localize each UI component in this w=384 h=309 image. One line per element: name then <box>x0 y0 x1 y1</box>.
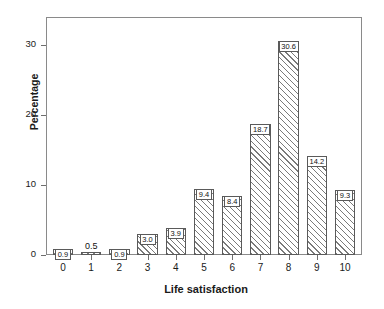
x-axis-tick-mark <box>176 255 177 260</box>
x-axis-tick-mark <box>204 255 205 260</box>
bar <box>250 124 270 255</box>
x-axis-tick-label: 3 <box>134 262 162 273</box>
y-axis-tick: 30 <box>0 45 46 46</box>
y-axis-tick: 20 <box>0 115 46 116</box>
x-axis-tick-label: 7 <box>246 262 274 273</box>
x-axis-tick-mark <box>148 255 149 260</box>
y-axis-tick-mark <box>41 255 46 256</box>
bar-value-label: 0.9 <box>55 249 71 260</box>
y-axis-tick-label: 0 <box>31 248 36 259</box>
y-axis-tick-label: 20 <box>25 108 36 119</box>
x-axis-tick-mark <box>289 255 290 260</box>
bar <box>278 41 298 255</box>
x-axis-tick-label: 8 <box>275 262 303 273</box>
y-axis-tick-label: 10 <box>25 178 36 189</box>
bar-value-label: 0.9 <box>111 249 127 260</box>
bar-value-label: 3.9 <box>168 228 184 239</box>
x-axis-tick-mark <box>317 255 318 260</box>
x-axis-tick-mark <box>91 255 92 260</box>
bar-value-label: 30.6 <box>279 41 299 52</box>
x-axis-title: Life satisfaction <box>46 283 366 295</box>
x-axis-tick-label: 2 <box>105 262 133 273</box>
x-axis-tick-label: 1 <box>77 262 105 273</box>
x-axis-tick-label: 0 <box>49 262 77 273</box>
bar-value-label: 0.5 <box>83 241 99 252</box>
x-axis-tick-label: 10 <box>331 262 359 273</box>
y-axis-tick: 10 <box>0 185 46 186</box>
y-axis-tick-mark <box>41 185 46 186</box>
y-axis-tick-mark <box>41 45 46 46</box>
y-axis-title: Percentage <box>28 32 40 172</box>
x-axis-tick-label: 6 <box>218 262 246 273</box>
bar-chart: Percentage 0102030 012345678910 0.90.50.… <box>0 0 384 309</box>
x-axis-tick-mark <box>260 255 261 260</box>
bar-value-label: 8.4 <box>224 196 240 207</box>
x-axis-tick-label: 9 <box>303 262 331 273</box>
bar-value-label: 9.3 <box>337 190 353 201</box>
y-axis-tick-mark <box>41 115 46 116</box>
x-axis-tick-mark <box>345 255 346 260</box>
bar <box>81 252 101 256</box>
x-axis-tick-label: 4 <box>162 262 190 273</box>
bar-value-label: 9.4 <box>196 189 212 200</box>
bar-value-label: 14.2 <box>307 156 327 167</box>
bar-value-label: 18.7 <box>250 124 270 135</box>
y-axis-tick-label: 30 <box>25 38 36 49</box>
bar-value-label: 3.0 <box>140 234 156 245</box>
x-axis-tick-label: 5 <box>190 262 218 273</box>
x-axis-tick-mark <box>232 255 233 260</box>
bar <box>307 156 327 255</box>
y-axis-tick: 0 <box>0 255 46 256</box>
